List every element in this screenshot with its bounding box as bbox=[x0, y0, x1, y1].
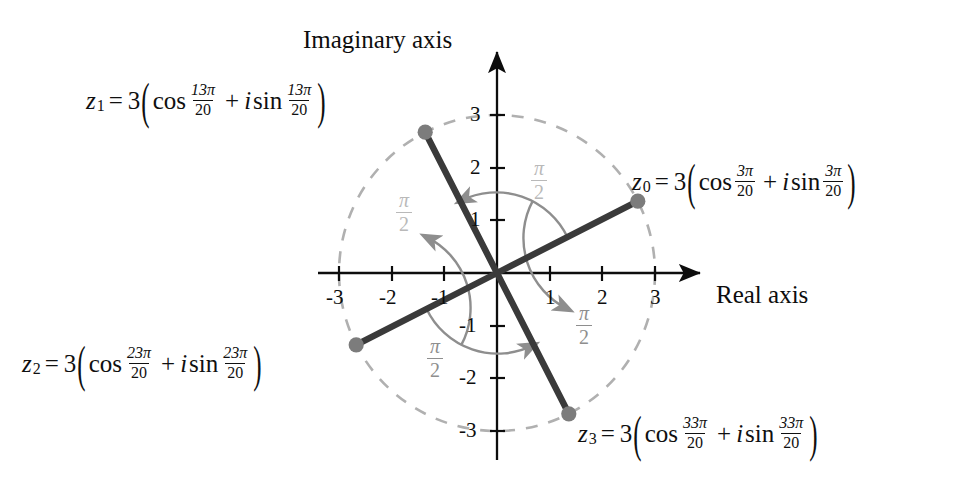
x-tick-label-neg1: -1 bbox=[431, 285, 449, 310]
z0-cos-angle: 3π 20 bbox=[735, 163, 755, 199]
y-tick-label-3: 3 bbox=[470, 102, 481, 127]
z2-subscript: 2 bbox=[33, 361, 41, 377]
x-tick-label-2: 2 bbox=[597, 285, 608, 310]
root-label-z3: z3 = 3 ( cos 33π 20 + i sin 33π 20 ) bbox=[578, 415, 819, 451]
z3-cos: cos bbox=[645, 421, 678, 446]
z3-sin: sin bbox=[745, 421, 774, 446]
angle-label-4: π 2 bbox=[576, 303, 592, 348]
x-tick-label-1: 1 bbox=[545, 285, 556, 310]
z1-cos-angle: 13π 20 bbox=[189, 82, 217, 118]
vector-z1 bbox=[425, 132, 497, 273]
z0-plus: + bbox=[763, 169, 777, 194]
y-tick-label-neg2: -2 bbox=[459, 365, 477, 390]
x-tick-label-neg2: -2 bbox=[379, 285, 397, 310]
z2-close-paren: ) bbox=[253, 338, 261, 389]
y-tick-label-1: 1 bbox=[470, 207, 481, 232]
point-z1 bbox=[418, 125, 433, 140]
z2-equals: = bbox=[45, 351, 59, 376]
z3-open-paren: ( bbox=[633, 408, 641, 459]
angle-label-1: π 2 bbox=[531, 158, 547, 203]
z1-cos: cos bbox=[153, 88, 186, 113]
vector-z0 bbox=[497, 201, 638, 273]
z1-close-paren: ) bbox=[317, 75, 325, 126]
angle-label-2: π 2 bbox=[396, 190, 412, 235]
z1-sin-angle: 13π 20 bbox=[285, 82, 313, 118]
z3-modulus: 3 bbox=[620, 421, 633, 446]
z3-equals: = bbox=[601, 421, 615, 446]
x-tick-label-neg3: -3 bbox=[326, 285, 344, 310]
z3-imaginary-unit: i bbox=[736, 421, 743, 446]
z3-variable: z bbox=[578, 421, 588, 446]
point-z3 bbox=[561, 406, 576, 421]
y-tick-label-neg3: -3 bbox=[459, 418, 477, 443]
z2-cos-angle: 23π 20 bbox=[125, 345, 153, 381]
z0-sin: sin bbox=[791, 169, 820, 194]
z1-plus: + bbox=[225, 88, 239, 113]
z2-plus: + bbox=[161, 351, 175, 376]
z0-equals: = bbox=[655, 169, 669, 194]
z2-variable: z bbox=[22, 351, 32, 376]
angle-label-3: π 2 bbox=[427, 336, 443, 381]
z3-plus: + bbox=[717, 421, 731, 446]
complex-plane-figure: Imaginary axis Real axis -3 -2 -1 1 2 3 … bbox=[0, 0, 958, 487]
z3-close-paren: ) bbox=[809, 408, 817, 459]
z2-cos: cos bbox=[89, 351, 122, 376]
z0-cos: cos bbox=[699, 169, 732, 194]
z0-close-paren: ) bbox=[847, 156, 855, 207]
z2-open-paren: ( bbox=[77, 338, 85, 389]
point-z2 bbox=[349, 337, 364, 352]
z3-sin-angle: 33π 20 bbox=[777, 415, 805, 451]
root-label-z2: z2 = 3 ( cos 23π 20 + i sin 23π 20 ) bbox=[22, 345, 263, 381]
z3-subscript: 3 bbox=[589, 431, 597, 447]
z1-equals: = bbox=[109, 88, 123, 113]
vector-z3 bbox=[497, 273, 569, 414]
root-label-z1: z1 = 3 ( cos 13π 20 + i sin 13π 20 ) bbox=[86, 82, 327, 118]
z2-sin: sin bbox=[189, 351, 218, 376]
x-tick-label-3: 3 bbox=[650, 285, 661, 310]
z0-variable: z bbox=[632, 169, 642, 194]
imaginary-axis-title: Imaginary axis bbox=[303, 26, 452, 54]
real-axis-title: Real axis bbox=[716, 281, 808, 309]
z0-subscript: 0 bbox=[643, 179, 651, 195]
y-tick-label-2: 2 bbox=[470, 155, 481, 180]
z3-cos-angle: 33π 20 bbox=[681, 415, 709, 451]
z0-open-paren: ( bbox=[687, 156, 695, 207]
z0-imaginary-unit: i bbox=[782, 169, 789, 194]
z2-imaginary-unit: i bbox=[180, 351, 187, 376]
z1-subscript: 1 bbox=[97, 98, 105, 114]
root-label-z0: z0 = 3 ( cos 3π 20 + i sin 3π 20 ) bbox=[632, 163, 857, 199]
z1-open-paren: ( bbox=[141, 75, 149, 126]
z1-modulus: 3 bbox=[128, 88, 141, 113]
z1-imaginary-unit: i bbox=[244, 88, 251, 113]
z1-sin: sin bbox=[253, 88, 282, 113]
z1-variable: z bbox=[86, 88, 96, 113]
z2-modulus: 3 bbox=[64, 351, 77, 376]
y-tick-label-neg1: -1 bbox=[459, 313, 477, 338]
z0-sin-angle: 3π 20 bbox=[823, 163, 843, 199]
z0-modulus: 3 bbox=[674, 169, 687, 194]
z2-sin-angle: 23π 20 bbox=[221, 345, 249, 381]
